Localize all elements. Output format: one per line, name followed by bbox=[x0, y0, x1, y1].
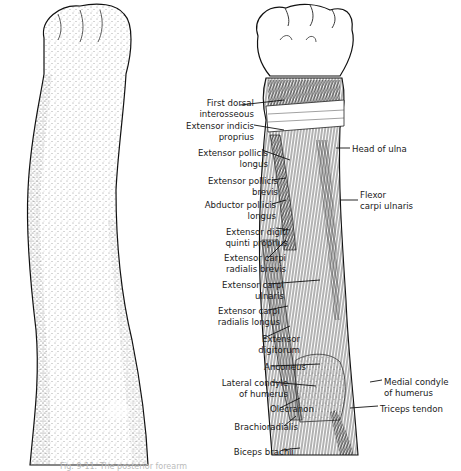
label-brachioradialis: Brachioradialis bbox=[234, 422, 298, 433]
label-line: carpi ulnaris bbox=[360, 201, 413, 212]
label-extensor-carpi-radialis-brevis: Extensor carpiradialis brevis bbox=[224, 253, 286, 274]
label-line: proprius bbox=[186, 132, 254, 143]
anatomy-figure: First dorsalinterosseousExtensor indicis… bbox=[0, 0, 461, 471]
label-line: Flexor bbox=[360, 190, 413, 201]
label-line: interosseous bbox=[199, 109, 254, 120]
label-line: quinti proprius bbox=[225, 238, 288, 249]
label-line: Extensor bbox=[258, 334, 300, 345]
fist bbox=[257, 4, 354, 76]
label-line: Head of ulna bbox=[352, 144, 407, 155]
label-line: Biceps brachii bbox=[234, 447, 294, 458]
label-anconeus: Anconeus bbox=[264, 362, 306, 373]
label-line: of humerus bbox=[384, 388, 449, 399]
label-line: Extensor carpi bbox=[224, 253, 286, 264]
label-line: Lateral condyle bbox=[222, 378, 288, 389]
label-medial-condyle-of-humerus: Medial condyleof humerus bbox=[384, 377, 449, 398]
label-extensor-carpi-ulnaris: Extensor carpiulnaris bbox=[222, 280, 284, 301]
label-line: Extensor pollicis bbox=[198, 148, 268, 159]
label-line: Triceps tendon bbox=[380, 404, 443, 415]
label-line: digitorum bbox=[258, 345, 300, 356]
label-extensor-digitorum: Extensordigitorum bbox=[258, 334, 300, 355]
label-head-of-ulna: Head of ulna bbox=[352, 144, 407, 155]
label-biceps-brachii: Biceps brachii bbox=[234, 447, 294, 458]
label-line: First dorsal bbox=[199, 98, 254, 109]
label-extensor-pollicis-longus: Extensor pollicislongus bbox=[198, 148, 268, 169]
label-line: Brachioradialis bbox=[234, 422, 298, 433]
label-line: Olecranon bbox=[270, 404, 314, 415]
figure-caption: Fig. 9-11. The posterior forearm bbox=[60, 462, 187, 471]
label-lateral-condyle-of-humerus: Lateral condyleof humerus bbox=[222, 378, 288, 399]
label-flexor-carpi-ulnaris: Flexorcarpi ulnaris bbox=[360, 190, 413, 211]
label-line: longus bbox=[198, 159, 268, 170]
label-line: longus bbox=[205, 211, 276, 222]
label-abductor-pollicis-longus: Abductor pollicislongus bbox=[205, 200, 276, 221]
label-line: Extensor indicis bbox=[186, 121, 254, 132]
label-line: Medial condyle bbox=[384, 377, 449, 388]
label-line: Extensor digiti bbox=[225, 227, 288, 238]
label-olecranon: Olecranon bbox=[270, 404, 314, 415]
label-extensor-carpi-radialis-longus: Extensor carpiradialis longus bbox=[218, 306, 280, 327]
label-line: radialis longus bbox=[218, 317, 280, 328]
label-extensor-indicis-proprius: Extensor indicisproprius bbox=[186, 121, 254, 142]
surface-arm bbox=[27, 4, 148, 465]
label-line: Extensor pollicis bbox=[208, 176, 278, 187]
label-line: Extensor carpi bbox=[222, 280, 284, 291]
label-extensor-pollicis-brevis: Extensor pollicisbrevis bbox=[208, 176, 278, 197]
label-first-dorsal-interosseous: First dorsalinterosseous bbox=[199, 98, 254, 119]
label-extensor-digiti-quinti-proprius: Extensor digitiquinti proprius bbox=[225, 227, 288, 248]
label-line: of humerus bbox=[222, 389, 288, 400]
label-line: Anconeus bbox=[264, 362, 306, 373]
label-triceps-tendon: Triceps tendon bbox=[380, 404, 443, 415]
label-line: ulnaris bbox=[222, 291, 284, 302]
label-line: brevis bbox=[208, 187, 278, 198]
label-line: Abductor pollicis bbox=[205, 200, 276, 211]
label-line: Extensor carpi bbox=[218, 306, 280, 317]
label-line: radialis brevis bbox=[224, 264, 286, 275]
